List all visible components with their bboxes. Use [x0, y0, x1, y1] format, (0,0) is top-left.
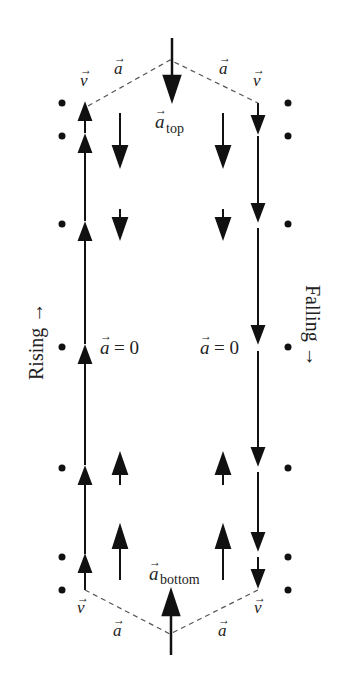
falling-label: Falling → — [301, 285, 324, 367]
svg-text:→: → — [218, 613, 230, 627]
a-bottom-subscript: bottom — [160, 572, 200, 587]
zero-accel-labels: a → = 0 a → = 0 — [100, 329, 239, 358]
right-position-dots — [285, 100, 292, 594]
top-acceleration-arrow — [164, 38, 180, 100]
svg-text:→: → — [254, 591, 266, 605]
a-zero-left: = 0 — [114, 337, 139, 358]
left-position-dots — [59, 100, 66, 594]
svg-text:→: → — [114, 51, 126, 65]
svg-text:→: → — [80, 63, 92, 77]
svg-text:→: → — [200, 329, 212, 343]
right-velocity-arrows — [252, 103, 264, 586]
a-zero-right: = 0 — [214, 337, 239, 358]
left-velocity-arrows — [79, 104, 91, 590]
svg-text:→: → — [155, 103, 167, 117]
a-top-subscript: top — [166, 121, 184, 136]
bottom-acceleration-arrow — [163, 591, 179, 655]
svg-text:→: → — [149, 555, 161, 569]
svg-text:→: → — [219, 51, 231, 65]
rising-label: Rising → — [25, 303, 48, 380]
svg-text:→: → — [253, 63, 265, 77]
svg-text:→: → — [113, 613, 125, 627]
svg-text:→: → — [100, 329, 112, 343]
oscillation-diagram: v → a → a → v → a → top a → = 0 a → = 0 … — [0, 0, 339, 691]
svg-text:→: → — [77, 591, 89, 605]
